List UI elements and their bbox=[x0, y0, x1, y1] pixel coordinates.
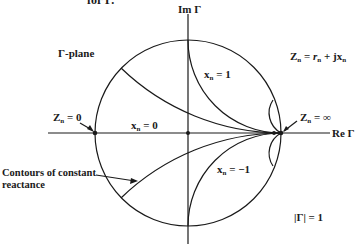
plane-label: Γ-plane bbox=[58, 48, 94, 59]
x-subscript: n bbox=[342, 56, 346, 64]
real-axis-label: Re Γ bbox=[332, 128, 355, 139]
x-value: = 0 bbox=[140, 119, 157, 131]
label-x-0: xn = 0 bbox=[131, 120, 158, 133]
arrowhead-open bbox=[283, 126, 289, 132]
open-circuit-point bbox=[279, 131, 284, 136]
convergence-point bbox=[272, 131, 276, 135]
arrowhead-short bbox=[87, 125, 94, 132]
label-x-1: xn = 1 bbox=[204, 69, 231, 82]
origin-point bbox=[186, 131, 190, 135]
caption-fragment: for Γ. bbox=[87, 0, 114, 6]
contours-annotation: Contours of constant reactance bbox=[2, 167, 96, 191]
unit-circle-label: |Γ| = 1 bbox=[294, 212, 323, 223]
z-value: = ∞ bbox=[311, 111, 331, 123]
impedance-definition: Zn = rn + jxn bbox=[290, 51, 346, 64]
plus-j: + j bbox=[321, 50, 336, 62]
annotation-line-2: reactance bbox=[2, 179, 96, 191]
short-circuit-point bbox=[93, 131, 98, 136]
label-open-circuit: Zn = ∞ bbox=[300, 112, 331, 125]
annotation-line-1: Contours of constant bbox=[2, 167, 96, 179]
x-value: = −1 bbox=[226, 163, 250, 175]
label-short-circuit: Zn = 0 bbox=[53, 112, 82, 125]
equals: = bbox=[301, 50, 313, 62]
imag-axis-label: Im Γ bbox=[178, 4, 201, 15]
arrowhead-contours bbox=[130, 178, 138, 184]
z-value: = 0 bbox=[64, 111, 81, 123]
reactance-arc-x-minus-0.4 bbox=[121, 133, 281, 198]
label-x-minus-1: xn = −1 bbox=[217, 164, 250, 177]
x-value: = 1 bbox=[213, 68, 230, 80]
arrow-contours bbox=[96, 175, 135, 181]
